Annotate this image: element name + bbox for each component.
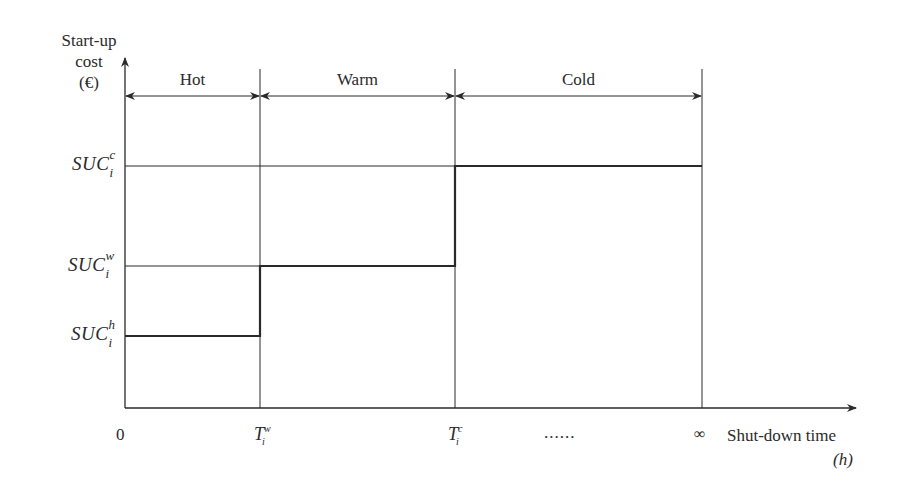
x-axis-label-line1: Shut-down time bbox=[727, 424, 853, 448]
x-tick-zero: 0 bbox=[116, 425, 125, 445]
y-axis-label-line1: Start-up bbox=[52, 30, 126, 51]
y-tick-suc-h: SUC h i bbox=[71, 323, 108, 345]
y-tick-suc-c: SUC c i bbox=[72, 153, 109, 175]
y-axis-label: Start-up cost (€) bbox=[52, 30, 126, 93]
x-axis-label-line2: (h) bbox=[727, 448, 853, 472]
x-tick-ellipsis: ...... bbox=[544, 423, 576, 443]
y-axis-label-line2: cost bbox=[52, 51, 126, 72]
region-label-warm: Warm bbox=[260, 70, 455, 90]
x-tick-tw: T w i bbox=[254, 424, 264, 445]
start-up-cost-step-line bbox=[125, 166, 702, 336]
y-tick-suc-w: SUC w i bbox=[68, 254, 105, 276]
region-label-cold: Cold bbox=[455, 70, 702, 90]
region-label-hot: Hot bbox=[125, 70, 260, 90]
y-axis-label-line3: (€) bbox=[52, 72, 126, 93]
x-tick-infinity: ∞ bbox=[694, 425, 705, 443]
x-axis-label: Shut-down time (h) bbox=[727, 424, 853, 472]
x-tick-tc: T c i bbox=[448, 424, 458, 445]
